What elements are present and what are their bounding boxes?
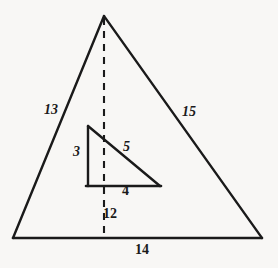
inner-triangle-hypotenuse [88, 126, 160, 186]
geometry-canvas [0, 0, 278, 268]
label-inner-vertical-3: 3 [73, 145, 80, 159]
label-altitude-12: 12 [103, 207, 117, 221]
label-left-side-13: 13 [44, 103, 58, 117]
label-base-14: 14 [135, 243, 149, 257]
label-inner-horizontal-4: 4 [122, 184, 129, 198]
outer-triangle-right-side [104, 16, 262, 238]
label-inner-hypotenuse-5: 5 [123, 140, 130, 154]
label-right-side-15: 15 [182, 105, 196, 119]
geometry-figure: 13 15 3 5 4 12 14 [0, 0, 278, 268]
